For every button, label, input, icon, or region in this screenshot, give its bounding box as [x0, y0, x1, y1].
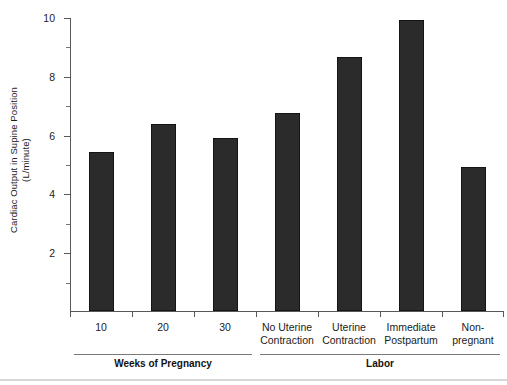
group-label: Weeks of Pregnancy — [74, 358, 252, 369]
x-tick-label-line: Contraction — [256, 334, 318, 347]
bar — [337, 57, 362, 311]
x-tick-label-line: pregnant — [442, 334, 504, 347]
y-tick-label-2: 2 — [49, 247, 55, 259]
x-tick-label-line: 10 — [70, 321, 132, 334]
x-tick-label: 30 — [194, 321, 256, 334]
x-tick-label-line: 30 — [194, 321, 256, 334]
x-tick-label: ImmediatePostpartum — [380, 321, 442, 346]
y-tick-label-4: 4 — [49, 188, 55, 200]
y-axis-title: Cardiac Output in Supine Position (L/min… — [0, 0, 40, 320]
y-axis-title-line1: Cardiac Output in Supine Position — [8, 87, 19, 233]
plot-area: 108642 — [70, 18, 504, 312]
x-axis-labels: 102030No UterineContractionUterineContra… — [70, 321, 504, 353]
group-label: Labor — [260, 358, 500, 369]
x-tick-label: Non-pregnant — [442, 321, 504, 346]
x-tick-label-line: No Uterine — [256, 321, 318, 334]
x-tick — [318, 311, 319, 317]
y-tick-label-8: 8 — [49, 71, 55, 83]
bar — [275, 113, 300, 311]
x-tick-label-line: Contraction — [318, 334, 380, 347]
x-tick-label: 10 — [70, 321, 132, 334]
bar — [151, 124, 176, 311]
group-rule — [260, 354, 500, 355]
x-tick — [442, 311, 443, 317]
y-tick-label-6: 6 — [49, 130, 55, 142]
bar — [89, 152, 114, 311]
x-tick-label-line: Immediate — [380, 321, 442, 334]
x-tick-label-line: Uterine — [318, 321, 380, 334]
x-tick — [503, 311, 504, 317]
page-divider-rule — [0, 379, 507, 381]
y-tick-label-10: 10 — [43, 12, 55, 24]
x-tick-label-line: Postpartum — [380, 334, 442, 347]
x-tick — [194, 311, 195, 317]
x-tick-label-line: Non- — [442, 321, 504, 334]
group-rule — [74, 354, 252, 355]
x-tick — [132, 311, 133, 317]
bar — [461, 167, 486, 311]
x-tick — [70, 311, 71, 317]
x-tick-label: No UterineContraction — [256, 321, 318, 346]
y-axis-title-line2: (L/minute) — [20, 87, 32, 233]
x-tick — [256, 311, 257, 317]
bar-series — [70, 18, 504, 312]
x-tick — [380, 311, 381, 317]
cardiac-output-bar-chart: Cardiac Output in Supine Position (L/min… — [0, 0, 507, 385]
bar — [399, 20, 424, 311]
x-tick-label: UterineContraction — [318, 321, 380, 346]
x-tick-label: 20 — [132, 321, 194, 334]
bar — [213, 138, 238, 311]
x-tick-label-line: 20 — [132, 321, 194, 334]
